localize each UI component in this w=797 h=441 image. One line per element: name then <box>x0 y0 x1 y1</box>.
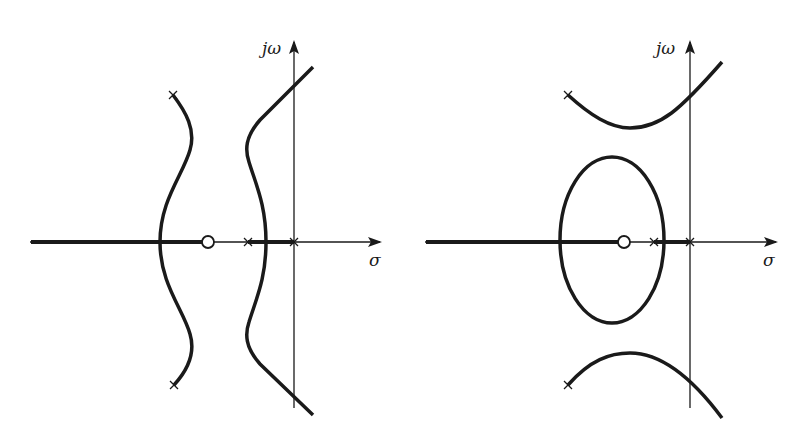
right-root-locus <box>425 42 776 418</box>
left-zero-icon <box>202 236 214 248</box>
left-complex-pole-lower-icon <box>170 381 178 389</box>
right-y-axis-label: jω <box>656 38 675 58</box>
right-zero-icon <box>618 236 630 248</box>
left-x-axis-label: σ <box>369 250 381 270</box>
left-root-locus <box>30 42 380 415</box>
right-complex-pole-upper-icon <box>564 91 572 99</box>
right-x-axis-label: σ <box>763 250 775 270</box>
right-complex-pole-lower-icon <box>564 381 572 389</box>
root-locus-diagrams <box>0 0 797 441</box>
left-y-axis-label: jω <box>262 38 281 58</box>
right-branch-upper <box>568 62 722 128</box>
right-branch-lower <box>568 353 722 418</box>
